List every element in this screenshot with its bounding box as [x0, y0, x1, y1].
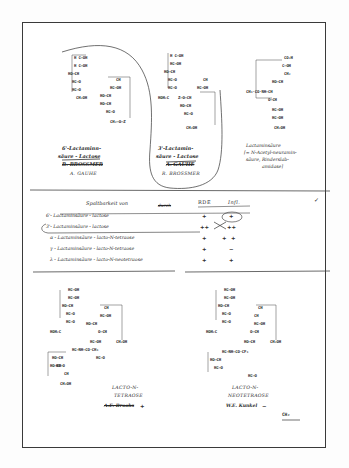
caption-lnt-mark: + — [140, 403, 145, 409]
structure-3-prime-line-6: HOH₂C — [158, 96, 169, 100]
structure-lnt-line-4: HC–O — [66, 312, 75, 316]
structure-lnt-line-9: HC–NH–CO·CH₃ — [72, 348, 99, 352]
caption-6-prime-author: A. GAUHE — [70, 172, 97, 177]
structure-3-prime-branch-3: Z–O–CH — [178, 96, 191, 100]
trailing-fragment: CH₂ — [282, 412, 290, 417]
table-cell-rde: + — [202, 257, 207, 263]
caption-6-prime-line-1: 6'-Lactaminn- — [62, 146, 101, 151]
table-row: λ - Lactaminsäure - lacto-N-neotetraose — [50, 257, 143, 262]
table-cell-infl: ++ — [227, 224, 236, 230]
table-row: 6'- Lactaminsäure - lactose — [46, 213, 109, 218]
structure-lnnt-line-12: CH — [254, 314, 258, 318]
structure-6-prime-line-2: H C–OH — [74, 64, 87, 68]
structure-3-prime-branch-6: CH₂OH — [186, 126, 197, 130]
structure-lnnt-line-7: O–CH — [250, 330, 259, 334]
structure-3-prime-line-5: HC–O — [168, 86, 177, 90]
structure-lnt-line-16: HO–CH — [50, 364, 61, 368]
table-cell-infl: − — [229, 246, 234, 252]
structure-lnnt-line-14: HO–CH — [244, 340, 255, 344]
structure-lnt-line-2: HC–OH — [68, 296, 79, 300]
structure-6-prime-branch-4: HO–CH — [100, 102, 111, 106]
structure-lnnt-line-6: HOH₂C — [206, 330, 217, 334]
table-cell-infl-extra: + — [231, 235, 236, 241]
structure-lactaminic-line-6: O–CH — [268, 98, 277, 102]
structure-lnt-line-10: HO–CH — [52, 356, 63, 360]
structure-3-prime-line-3: HO–CH — [164, 70, 175, 74]
structure-3-prime-branch-4: HO–CH — [180, 104, 191, 108]
structure-lnt-line-14: HC–OH — [90, 340, 101, 344]
structure-6-prime-line-4: HC–O — [72, 80, 81, 84]
table-cell-infl: + — [229, 257, 234, 263]
structure-3-prime-branch-2: HC–OH — [197, 86, 208, 90]
structure-6-prime-line-6: CH₂OH — [76, 96, 87, 100]
structure-lnt-line-19: CH₂OH — [60, 382, 71, 386]
table-cell-rde: + — [202, 246, 207, 252]
structure-6-prime-branch-2: HC–OH — [110, 86, 121, 90]
table-row: 3'- Lactaminsäure - lactose — [46, 224, 109, 229]
structure-6-prime-branch-3: HO–CH — [100, 94, 111, 98]
caption-lactaminic-line-2: [= N-Acetyl-neuramin- — [244, 151, 297, 156]
notebook-page: H C–OH H C–OH HO–CH HC–O HC–O CH₂OH CH H… — [0, 0, 349, 468]
table-column-rde: RDE — [198, 199, 211, 205]
structure-lnt-line-5: HC–O — [66, 320, 75, 324]
structure-3-prime-line-2: HC–OH — [170, 62, 181, 66]
table-cell-rde: ++ — [200, 224, 209, 230]
structure-lnt-line-6: HOH₂C — [50, 330, 61, 334]
caption-3-prime-author: R. BROSSMER — [162, 172, 200, 177]
caption-lnnt-line-2: NEOTETRAOSE — [228, 394, 269, 399]
structure-6-prime-branch-6: CH₂–O–Z — [110, 120, 125, 124]
table-cell-infl: + — [222, 235, 227, 241]
structure-lnnt-line-16: CH₂OH — [270, 340, 281, 344]
caption-lnnt-line-1: LACTO-N- — [232, 386, 258, 391]
structure-lnnt-line-11: HC–O — [214, 366, 223, 370]
caption-6-prime-struck-name: R. BROSSMER — [62, 162, 103, 167]
structure-lactaminic-line-4: HO–CH — [272, 80, 283, 84]
structure-lnnt-line-10: HO–CH — [210, 358, 221, 362]
structure-lactaminic-line-8: HC–OH — [272, 116, 283, 120]
structure-lnt-line-13: HC–OH — [100, 314, 111, 318]
structure-3-prime-line-4: HC–O — [168, 78, 177, 82]
table-row: α - Lactaminsäure - lacto-N-tetraose — [50, 235, 134, 240]
caption-lactaminic-line-1: Lactaminsäure — [246, 144, 281, 149]
structure-lnt-line-18: CH₂OH — [116, 340, 127, 344]
table-title: Spaltbarkeit von — [86, 200, 128, 206]
structure-lactaminic-line-9: CH₂OH — [274, 126, 285, 130]
structure-lnnt-line-3: HO–CH — [218, 304, 229, 308]
checkmark-icon: ✓ — [314, 196, 319, 203]
structure-lnt-line-3: HO–CH — [62, 304, 73, 308]
table-cell-infl: + — [229, 213, 234, 219]
structure-lnt-line-7: O–CH — [98, 330, 107, 334]
structure-lnnt-line-1: HC–OH — [224, 288, 235, 292]
structure-6-prime-line-3: HO–CH — [68, 72, 79, 76]
caption-3-prime-struck-name: A. GAUHE — [166, 162, 194, 167]
structure-6-prime-branch-1: CH — [116, 78, 120, 82]
table-cell-rde: + — [202, 213, 207, 219]
structure-3-prime-branch-5: HC–O — [184, 112, 193, 116]
structure-lnnt-line-5: HC–O — [222, 320, 231, 324]
structure-lnt-line-15: HO–CH — [86, 322, 97, 326]
structure-lnnt-line-13: HC–OH — [254, 322, 265, 326]
structure-lnnt-line-8: CH — [258, 306, 262, 310]
table-column-infl: Infl. — [228, 199, 240, 205]
caption-lnt-line-2: TETRAOSE — [114, 394, 143, 399]
caption-lnnt-author: W.E. Kunkel — [226, 404, 257, 409]
structure-lnnt-line-9: HC–NH–CO·CF₃ — [222, 350, 249, 354]
caption-lnt-struck-name: A.E. Brooks — [104, 404, 134, 409]
table-row: γ - Lactaminsäure - lacto-N-tetraose — [50, 246, 134, 251]
caption-lnnt-mark: − — [262, 403, 267, 409]
caption-3-prime-line-1: 3'-Lactamin- — [158, 146, 193, 151]
structure-lnnt-line-4: HC–O — [222, 312, 231, 316]
caption-lnt-line-1: LACTO-N- — [112, 386, 138, 391]
structure-lnt-line-1: HC–OH — [68, 288, 79, 292]
table-cell-rde: + — [202, 235, 207, 241]
structure-lnt-line-12: CH — [64, 372, 68, 376]
caption-lactaminic-line-3: säure, Rinderslab- — [246, 158, 289, 163]
caption-6-prime-line-2: säure - Lactose — [58, 154, 101, 159]
structure-lactaminic-line-3: CH₂ — [284, 72, 291, 76]
caption-lactaminic-line-4: amidase] — [262, 165, 283, 170]
table-by-label: durch — [158, 203, 171, 208]
structure-lnt-line-8: CH — [104, 306, 108, 310]
structure-lactaminic-line-7: HC–OH — [272, 108, 283, 112]
structure-6-prime-backbone: H C–OH — [74, 56, 87, 60]
structure-lactaminic-line-2: C–OH — [282, 64, 291, 68]
